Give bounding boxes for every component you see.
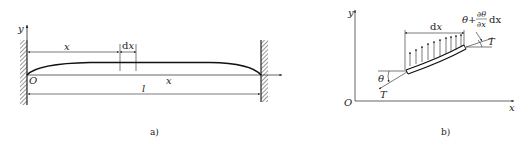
y-axis-label-b: y (347, 7, 354, 18)
caption-b: b) (441, 127, 450, 137)
segment-lower (408, 49, 466, 74)
string-vibration-diagram: y x O x dx l a) y x O T (0, 0, 531, 144)
y-axis-label-a: y (17, 23, 24, 34)
caption-a: a) (150, 127, 159, 137)
dim-x-label: x (64, 41, 70, 52)
tension-left-label: T (380, 89, 388, 100)
string-curve (27, 63, 261, 76)
theta-left-label: θ (378, 73, 384, 84)
origin-label-a: O (29, 75, 37, 86)
left-wall-hatch (20, 40, 27, 105)
theta-right-dx: dx (489, 14, 501, 25)
svg-text:∂x: ∂x (477, 20, 486, 29)
origin-label-b: O (344, 97, 352, 108)
theta-right-arc (478, 40, 482, 47)
figure-a: y x O x dx l a) (0, 0, 282, 137)
x-axis-label-a-text: x (166, 75, 172, 86)
theta-right-expression: θ+ ∂θ ∂x dx (462, 10, 501, 29)
segment-upper (406, 45, 464, 70)
dim-dx-label-a: dx (122, 40, 134, 51)
x-axis-label-b: x (509, 102, 515, 113)
figure-b: y x O T θ dx (344, 7, 515, 137)
tension-right-label: T (488, 36, 496, 47)
dim-l-label: l (142, 83, 145, 94)
theta-right-leader (476, 32, 482, 41)
segment-end-right (464, 45, 466, 49)
right-wall-hatch (261, 40, 268, 102)
segment-end-left (406, 70, 408, 74)
dim-dx-label-b: dx (430, 21, 442, 32)
svg-text:∂θ: ∂θ (477, 10, 486, 19)
theta-left-arc (388, 71, 389, 82)
svg-text:θ+: θ+ (462, 14, 476, 25)
